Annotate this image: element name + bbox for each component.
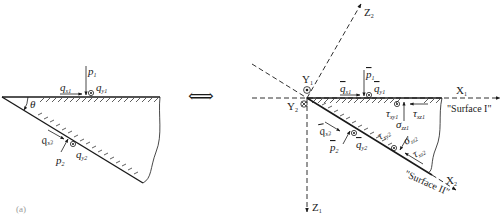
p1-bar-label: p1 xyxy=(365,68,375,81)
qy2-bar-label: qy2 xyxy=(356,138,367,151)
right-wedge: X1 Z1 Z2 X2 Y1 Y2 xyxy=(252,4,500,214)
qy1-label: qy1 xyxy=(96,81,107,94)
qx2-bar-label: qx2 xyxy=(318,123,331,138)
z2-axis xyxy=(307,4,361,98)
qx2-arrow xyxy=(48,130,64,139)
angle-theta-label: θ xyxy=(30,98,36,110)
p1-label: p1 xyxy=(87,65,97,78)
qx2-bar-arrow xyxy=(325,122,340,131)
sigma-zz1-label: σzz1 xyxy=(396,118,409,131)
sigma-zz2-label: σzz2 xyxy=(401,130,419,148)
tau-xz1-label: τxz1 xyxy=(413,107,425,120)
qy2-label: qy2 xyxy=(76,148,87,161)
surface-1-name: "Surface I" xyxy=(447,103,492,114)
p2-label: p2 xyxy=(55,154,65,167)
out-of-plane-dot-icon xyxy=(366,92,371,97)
y1-out-of-plane-icon xyxy=(304,87,311,94)
out-of-plane-dot-icon xyxy=(351,130,356,135)
y1-axis-label: Y1 xyxy=(302,73,313,86)
x1-axis-label: X1 xyxy=(456,84,467,97)
tau-xy2-label: τxy2 xyxy=(375,125,392,142)
hatching-top xyxy=(40,98,158,102)
panel-label: (a) xyxy=(16,204,26,214)
y2-into-plane-icon xyxy=(301,101,307,107)
cut-edge xyxy=(428,98,442,173)
y2-axis-label: Y2 xyxy=(287,100,298,113)
z1-axis-label: Z1 xyxy=(312,201,322,214)
out-of-plane-dot-icon xyxy=(70,141,75,146)
wedge-loading-diagram: θ p1 qx1 qy1 qx2 p2 qy2 ⟺ (a) X1 Z1 xyxy=(0,0,504,216)
p2-arrow xyxy=(61,139,68,152)
equivalence-arrow-icon: ⟺ xyxy=(188,86,214,106)
out-of-plane-dot-icon xyxy=(391,145,396,150)
qx2-label: qx2 xyxy=(40,132,53,147)
x2-axis-extension xyxy=(252,64,307,98)
p2-bar-label: p2 xyxy=(329,141,339,154)
qx1-label: qx1 xyxy=(60,81,71,94)
qx1-bar-label: qx1 xyxy=(340,82,351,95)
z2-axis-label: Z2 xyxy=(364,6,374,19)
p2-bar-arrow xyxy=(343,131,350,144)
left-wedge: θ p1 qx1 qy1 qx2 p2 qy2 xyxy=(2,65,160,183)
qy1-bar-label: qy1 xyxy=(374,82,385,95)
out-of-plane-dot-icon xyxy=(88,90,93,95)
angle-arc xyxy=(24,97,28,110)
hatching-top-right xyxy=(312,99,440,103)
